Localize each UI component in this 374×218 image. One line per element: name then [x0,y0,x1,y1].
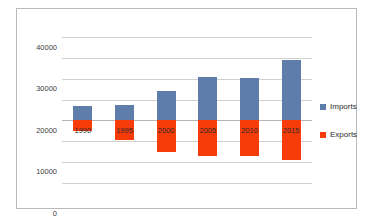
bar-segment-imports[interactable] [198,77,217,120]
legend-label-exports: Exports [330,131,357,139]
x-axis-tick-label: 2010 [241,127,258,135]
bar-column[interactable]: 2005 [198,27,217,193]
bar-column[interactable]: 1990 [73,27,92,193]
x-axis-tick-label: 1990 [74,127,91,135]
legend-swatch-imports [320,104,326,110]
legend-item-exports[interactable]: Exports [320,131,357,139]
bar-column[interactable]: 2015 [282,27,301,193]
bar-column[interactable]: 1995 [115,27,134,193]
y-axis-tick-label: 30000 [36,86,57,94]
legend-item-imports[interactable]: Imports [320,103,357,111]
bar-segment-imports[interactable] [282,60,301,120]
bar-segment-imports[interactable] [240,78,259,121]
legend-label-imports: Imports [330,103,357,111]
y-axis-tick-label: 0 [53,210,57,218]
bar-segment-imports[interactable] [115,105,134,121]
x-axis-tick-label: 1995 [116,127,133,135]
x-axis-tick-label: 2015 [283,127,300,135]
y-axis-tick-label: 40000 [36,44,57,52]
bar-group: 199019952000200520102015 [62,27,312,193]
x-axis-tick-label: 2000 [158,127,175,135]
bar-segment-imports[interactable] [73,106,92,121]
bar-column[interactable]: 2000 [157,27,176,193]
chart-frame: 400003000020000100000−10000−20000−30000 … [16,8,357,209]
x-axis-tick-label: 2005 [199,127,216,135]
legend-swatch-exports [320,132,326,138]
y-axis-tick-label: 10000 [36,169,57,177]
y-axis-tick-label: 20000 [36,127,57,135]
bar-column[interactable]: 2010 [240,27,259,193]
plot-area: 400003000020000100000−10000−20000−30000 … [62,27,312,193]
bar-segment-imports[interactable] [157,91,176,120]
bar-segment-exports[interactable] [157,120,176,152]
